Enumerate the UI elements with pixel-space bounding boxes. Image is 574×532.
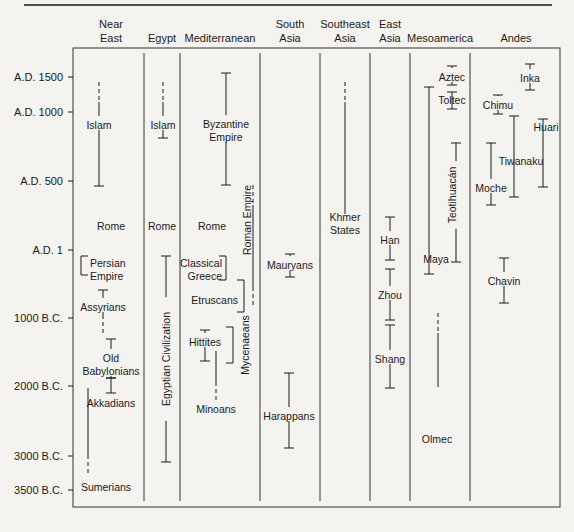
civ-minoans-label: Minoans (196, 403, 236, 415)
region-header-east-asia: Asia (379, 32, 401, 44)
civ-rome-label: Rome (97, 220, 125, 232)
civ-huari: Huari (533, 119, 558, 187)
civ-mycenaeans-label: Mycenaeans (239, 315, 251, 375)
civ-mycenaeans: Mycenaeans (226, 315, 251, 375)
axis-tick-label: 3000 B.C. (14, 450, 63, 462)
civ-roman-empire-label: Roman Empire (241, 185, 253, 255)
civ-old-babylonians-label: Old (103, 352, 120, 364)
civ-hittites-label: Hittites (189, 336, 221, 348)
region-header-east-asia: East (379, 18, 401, 30)
axis-tick-label: A.D. 1 (32, 244, 63, 256)
axis-tick-label: A.D. 500 (20, 175, 63, 187)
civ-huari-label: Huari (533, 121, 558, 133)
civ-shang: Shang (375, 325, 406, 388)
civ-byzantine-empire: ByzantineEmpire (203, 73, 249, 185)
time-axis: A.D. 1500A.D. 1000A.D. 500A.D. 11000 B.C… (14, 71, 73, 496)
civilization-spans: IslamRomePersianEmpireAssyriansOldBabylo… (80, 64, 558, 493)
region-header-andes: Andes (500, 32, 532, 44)
civ-shang-label: Shang (375, 353, 406, 365)
civ-classical-greece-label: Greece (188, 270, 223, 282)
civ-mauryans: Mauryans (267, 254, 313, 277)
civ-classical-greece-label: Classical (180, 257, 222, 269)
civ-teotihuac-n: Teotihuacán (446, 143, 461, 262)
civ-akkadians: Akkadians (87, 378, 135, 409)
civ-assyrians: Assyrians (80, 290, 126, 335)
civ-chavin-label: Chavin (488, 275, 521, 287)
civ-islam-label: Islam (150, 119, 175, 131)
civ-han-label: Han (380, 234, 399, 246)
axis-tick-label: A.D. 1000 (14, 106, 63, 118)
civ-inka-label: Inka (520, 72, 540, 84)
civ-old-babylonians-label: Babylonians (82, 365, 139, 377)
civ-etruscans: Etruscans (191, 280, 244, 312)
region-header-egypt: Egypt (148, 32, 176, 44)
civ-aztec: Aztec (439, 66, 465, 85)
civ-maya-label: Maya (423, 253, 449, 265)
civ-tiwanaku-label: Tiwanaku (499, 155, 544, 167)
civ-egyptian-civilization-label: Egyptian Civilization (160, 312, 172, 406)
civ-rome: Rome (148, 220, 176, 232)
region-header-mediterranean: Mediterranean (185, 32, 256, 44)
civ-inka: Inka (520, 64, 540, 90)
civ-harappans-label: Harappans (263, 410, 314, 422)
civ-islam: Islam (150, 82, 175, 138)
axis-tick-label: 2000 B.C. (14, 380, 63, 392)
civ-zhou-label: Zhou (378, 289, 402, 301)
region-header-southeast-asia: Southeast (320, 18, 370, 30)
axis-tick-label: 1000 B.C. (14, 312, 63, 324)
civ-chimu-label: Chimu (483, 99, 514, 111)
civ-rome: Rome (97, 220, 125, 232)
civ-olmec: Olmec (422, 313, 452, 445)
civ-sumerians-label: Sumerians (81, 481, 131, 493)
civ-harappans: Harappans (263, 373, 314, 448)
civ-rome-label: Rome (198, 220, 226, 232)
civ-olmec-label: Olmec (422, 433, 452, 445)
civ-moche-label: Moche (475, 182, 507, 194)
civ-toltec: Toltec (438, 92, 465, 109)
region-header-south-asia: South (276, 18, 305, 30)
civ-persian-empire-label: Persian (90, 257, 126, 269)
civ-rome: Rome (198, 220, 226, 232)
civ-etruscans-label: Etruscans (191, 294, 238, 306)
civ-khmer-states-label: States (330, 224, 360, 236)
timeline-chart: NearEastEgyptMediterraneanSouthAsiaSouth… (0, 0, 574, 532)
civ-old-babylonians: OldBabylonians (82, 339, 139, 378)
civ-teotihuac-n-label: Teotihuacán (446, 167, 458, 224)
civ-assyrians-label: Assyrians (80, 301, 126, 313)
civilization-timeline-diagram: NearEastEgyptMediterraneanSouthAsiaSouth… (0, 0, 574, 532)
civ-chavin: Chavin (488, 258, 521, 303)
civ-classical-greece: ClassicalGreece (180, 256, 226, 282)
civ-islam-label: Islam (86, 119, 111, 131)
civ-byzantine-empire-label: Empire (209, 131, 242, 143)
civ-zhou: Zhou (378, 269, 402, 320)
region-header-southeast-asia: Asia (334, 32, 356, 44)
region-header-south-asia: Asia (279, 32, 301, 44)
civ-egyptian-civilization: Egyptian Civilization (160, 256, 172, 462)
region-header-near-east: East (100, 32, 122, 44)
civ-akkadians-label: Akkadians (87, 397, 135, 409)
civ-persian-empire-label: Empire (90, 270, 123, 282)
civ-byzantine-empire-label: Byzantine (203, 118, 249, 130)
civ-rome-label: Rome (148, 220, 176, 232)
region-header-mesoamerica: Mesoamerica (407, 32, 474, 44)
civ-persian-empire: PersianEmpire (81, 256, 126, 282)
region-headers: NearEastEgyptMediterraneanSouthAsiaSouth… (99, 18, 532, 44)
civ-aztec-label: Aztec (439, 71, 465, 83)
axis-tick-label: A.D. 1500 (14, 71, 63, 83)
civ-khmer-states-label: Khmer (330, 211, 361, 223)
civ-mauryans-label: Mauryans (267, 259, 313, 271)
axis-tick-label: 3500 B.C. (14, 484, 63, 496)
civ-roman-empire: Roman Empire (241, 185, 253, 307)
region-header-near-east: Near (99, 18, 123, 30)
civ-khmer-states: KhmerStates (330, 82, 361, 236)
civ-chimu: Chimu (483, 95, 514, 114)
civ-islam: Islam (86, 82, 111, 186)
civ-toltec-label: Toltec (438, 94, 465, 106)
civ-moche: Moche (475, 143, 507, 205)
civ-han: Han (380, 217, 399, 260)
